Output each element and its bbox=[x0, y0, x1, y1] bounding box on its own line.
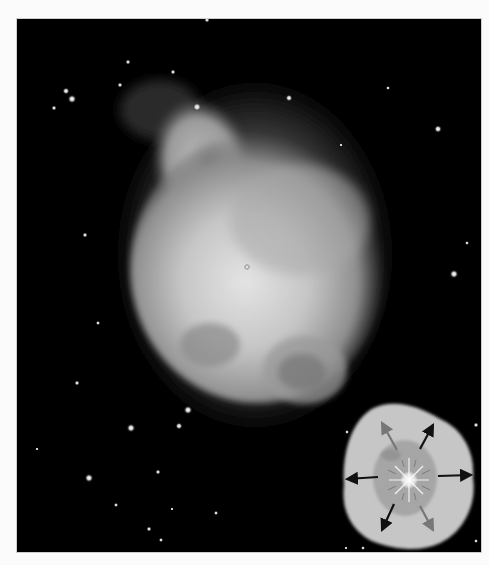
star bbox=[74, 380, 79, 385]
star bbox=[114, 503, 119, 508]
star bbox=[184, 406, 193, 415]
star bbox=[339, 143, 343, 147]
star bbox=[204, 19, 209, 23]
nebula-bottom-cavity bbox=[278, 354, 326, 390]
star bbox=[386, 86, 390, 90]
star bbox=[345, 430, 349, 434]
star bbox=[35, 447, 39, 451]
star bbox=[68, 95, 77, 104]
star bbox=[465, 241, 469, 245]
star bbox=[285, 94, 292, 101]
nebula-bottom-left-lobe bbox=[180, 323, 240, 367]
star bbox=[170, 69, 175, 74]
star bbox=[127, 424, 136, 433]
star bbox=[51, 105, 56, 110]
inset-diagram bbox=[344, 405, 472, 548]
star bbox=[82, 232, 87, 237]
nebula-core bbox=[130, 133, 386, 403]
star bbox=[117, 82, 122, 87]
nebula-photograph bbox=[17, 19, 481, 552]
star bbox=[214, 511, 219, 516]
star bbox=[473, 422, 478, 427]
star bbox=[170, 507, 174, 511]
star bbox=[125, 59, 130, 64]
star bbox=[62, 87, 69, 94]
nebula-scene bbox=[17, 19, 481, 552]
nebula-upper-right bbox=[230, 165, 370, 275]
star bbox=[175, 422, 182, 429]
star bbox=[361, 546, 365, 550]
star bbox=[155, 469, 160, 474]
nebula-central-star bbox=[244, 264, 250, 270]
inset-central-star-icon bbox=[400, 471, 418, 489]
star bbox=[96, 321, 101, 326]
star bbox=[450, 270, 459, 279]
star bbox=[146, 526, 151, 531]
star bbox=[85, 474, 94, 483]
star bbox=[434, 125, 442, 133]
arrow-right-icon bbox=[438, 475, 471, 476]
star bbox=[159, 538, 164, 543]
inset-inner-blob bbox=[381, 449, 401, 461]
star bbox=[474, 539, 478, 543]
star bbox=[193, 103, 202, 112]
star bbox=[344, 546, 348, 550]
